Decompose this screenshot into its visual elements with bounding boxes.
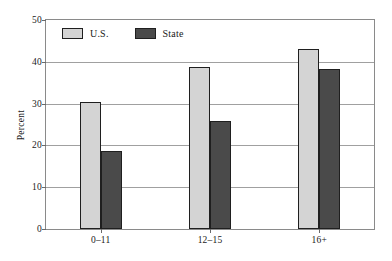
y-tick-label: 0 [37, 224, 42, 234]
bar-us-2 [298, 49, 319, 229]
legend-swatch-icon [62, 28, 83, 39]
bar-state-0 [101, 151, 122, 229]
y-tick-mark [42, 187, 46, 188]
bar-chart-figure: Percent 01020304050 0–1112–1516+ U.S.Sta… [0, 0, 392, 261]
chart-legend: U.S.State [62, 28, 184, 39]
bar-us-1 [189, 67, 210, 229]
y-tick-mark [42, 62, 46, 63]
y-tick-mark [42, 104, 46, 105]
y-tick-mark [42, 145, 46, 146]
x-tick-label: 16+ [312, 235, 327, 245]
y-tick-label: 10 [32, 182, 42, 192]
x-tick-label: 12–15 [198, 235, 223, 245]
bar-state-2 [319, 69, 340, 229]
plot-area: 01020304050 0–1112–1516+ U.S.State [45, 19, 375, 230]
y-axis-title: Percent [16, 110, 26, 141]
legend-swatch-icon [135, 28, 156, 39]
legend-label: U.S. [90, 28, 109, 39]
x-tick-mark [101, 229, 102, 233]
x-tick-label: 0–11 [91, 235, 110, 245]
legend-item: State [135, 28, 184, 39]
y-tick-label: 40 [32, 57, 42, 67]
y-tick-label: 20 [32, 140, 42, 150]
legend-item: U.S. [62, 28, 109, 39]
bar-state-1 [210, 121, 231, 229]
bar-us-0 [80, 102, 101, 229]
y-tick-label: 30 [32, 99, 42, 109]
y-tick-label: 50 [32, 15, 42, 25]
y-tick-mark [42, 20, 46, 21]
x-tick-mark [210, 229, 211, 233]
x-tick-mark [319, 229, 320, 233]
y-tick-mark [42, 229, 46, 230]
legend-label: State [163, 28, 184, 39]
gridline [46, 62, 374, 63]
